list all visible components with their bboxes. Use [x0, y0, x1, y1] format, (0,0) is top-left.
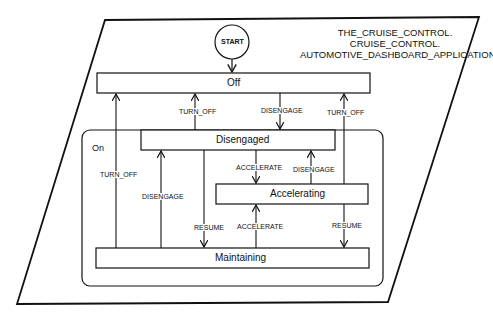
- edge-label-resume-accelerating-maintaining: RESUME: [331, 222, 363, 229]
- edge-label-turn-off-accelerating-off: TURN_OFF: [326, 109, 365, 116]
- superstate-on-label: On: [92, 144, 104, 153]
- edge-label-resume-disengaged-maintaining: RESUME: [193, 224, 225, 231]
- edge-label-turn-off-disengaged-off: TURN_OFF: [178, 108, 217, 115]
- edge-label-accelerate-disengaged-accelerating: ACCELERATE: [235, 164, 283, 171]
- edge-label-disengage-accelerating-disengaged: DISENGAGE: [292, 166, 336, 173]
- start-label: START: [221, 38, 244, 45]
- class-title: THE_CRUISE_CONTROL. CRUISE_CONTROL. AUTO…: [300, 27, 490, 60]
- state-disengaged-label: Disengaged: [216, 135, 269, 145]
- edge-label-disengage-maintaining-disengaged: DISENGAGE: [141, 193, 185, 200]
- state-accelerating-label: Accelerating: [270, 189, 325, 199]
- title-line-1: THE_CRUISE_CONTROL.: [300, 27, 490, 38]
- state-off-label: Off: [227, 78, 240, 88]
- edge-label-turn-off-maintaining-off: TURN_OFF: [99, 171, 138, 178]
- state-maintaining-label: Maintaining: [215, 253, 266, 263]
- edge-label-accelerate-maintaining-accelerating: ACCELERATE: [236, 223, 284, 230]
- title-line-2: CRUISE_CONTROL.: [300, 38, 490, 49]
- edge-label-disengage-off-disengaged: DISENGAGE: [260, 107, 304, 114]
- title-line-3: AUTOMOTIVE_DASHBOARD_APPLICATION: [300, 49, 490, 60]
